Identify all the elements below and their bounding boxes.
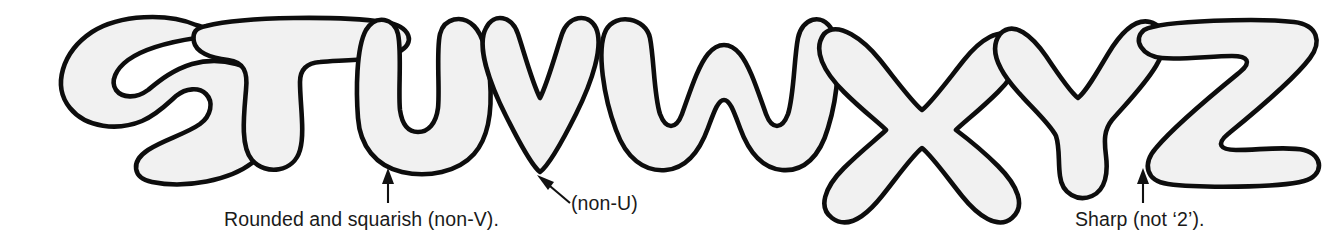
annotation-label-non-u: (non-U) [571,194,638,214]
figure-canvas: Rounded and squarish (non-V). (non-U) Sh… [0,0,1343,242]
arrow-to-u [382,168,394,203]
letter-glyph-V [483,18,599,172]
letter-glyph-Y [995,21,1164,198]
bubble-letters-illustration [0,0,1343,242]
letter-glyph-U [357,19,491,174]
arrow-to-v [537,175,570,203]
letter-glyph-X [819,29,1020,222]
letter-glyph-Z [1139,20,1319,187]
letter-glyph-W [601,19,837,170]
annotation-label-rounded-squarish: Rounded and squarish (non-V). [224,210,499,230]
annotation-label-sharp: Sharp (not ‘2’). [1075,210,1205,230]
